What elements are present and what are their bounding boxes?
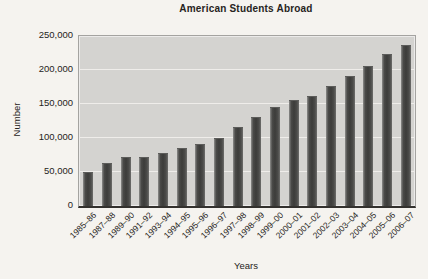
bar-1993-94 xyxy=(158,153,168,206)
plot-area xyxy=(78,35,416,208)
bar-1995-96 xyxy=(195,144,205,206)
bar-1996-97 xyxy=(214,138,224,206)
bar-2004-05 xyxy=(363,66,373,206)
bar-1985-86 xyxy=(83,172,93,206)
bar-1989-90 xyxy=(121,157,131,206)
figure: American Students Abroad Number Years 05… xyxy=(0,0,428,279)
bar-1997-98 xyxy=(233,127,243,206)
x-axis-title: Years xyxy=(78,260,414,271)
y-tick-label: 0 xyxy=(27,199,73,211)
bar-1994-95 xyxy=(177,148,187,206)
bar-2001-02 xyxy=(307,96,317,206)
bar-2000-01 xyxy=(289,100,299,206)
y-tick-label: 50,000 xyxy=(27,165,73,177)
bar-2006-07 xyxy=(401,45,411,206)
bar-1991-92 xyxy=(139,157,149,206)
bar-2003-04 xyxy=(345,76,355,206)
bar-1999-00 xyxy=(270,107,280,206)
bar-2005-06 xyxy=(382,54,392,206)
bar-1998-99 xyxy=(251,117,261,206)
y-tick-label: 100,000 xyxy=(27,131,73,143)
y-tick-label: 200,000 xyxy=(27,63,73,75)
chart-title: American Students Abroad xyxy=(78,3,414,14)
y-tick-label: 250,000 xyxy=(27,29,73,41)
bar-1987-88 xyxy=(102,163,112,206)
y-tick-label: 150,000 xyxy=(27,97,73,109)
y-axis-title: Number xyxy=(11,97,22,143)
bar-2002-03 xyxy=(326,86,336,206)
